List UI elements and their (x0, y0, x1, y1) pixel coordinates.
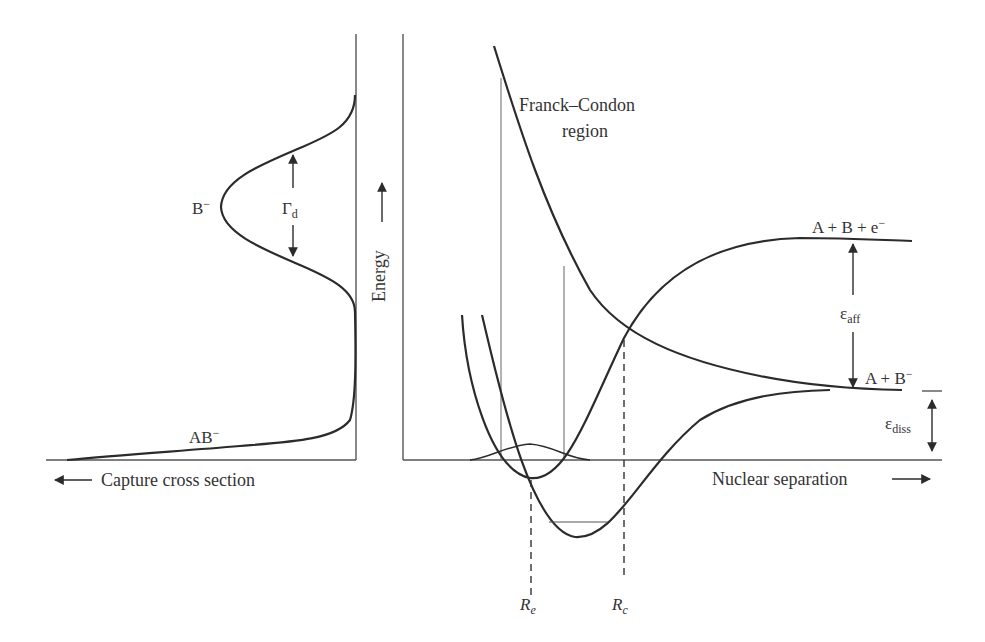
gamma-d-label: Γd (282, 200, 298, 220)
nuclear-separation-label: Nuclear separation (712, 470, 847, 488)
re-marker-label: Re (520, 596, 536, 616)
energy-axis-label: Energy (370, 250, 388, 302)
ab-minus-label: AB− (189, 427, 219, 446)
potential-energy-diagram (0, 0, 985, 642)
capture-cross-section-label: Capture cross section (101, 471, 255, 489)
bound-anion-curve (482, 315, 830, 537)
franck-condon-label-line1: Franck–Condon (519, 96, 635, 114)
top-level-label: A + B + e− (812, 217, 885, 236)
middle-level-label: A + B− (865, 368, 913, 387)
rc-marker-label: Rc (612, 596, 628, 616)
left-panel (46, 34, 356, 480)
franck-condon-label-line2: region (562, 122, 608, 140)
neutral-molecule-curve (462, 238, 912, 478)
b-minus-label: B− (192, 198, 210, 217)
epsilon-aff-label: εaff (840, 305, 860, 325)
epsilon-diss-label: εdiss (885, 415, 911, 435)
